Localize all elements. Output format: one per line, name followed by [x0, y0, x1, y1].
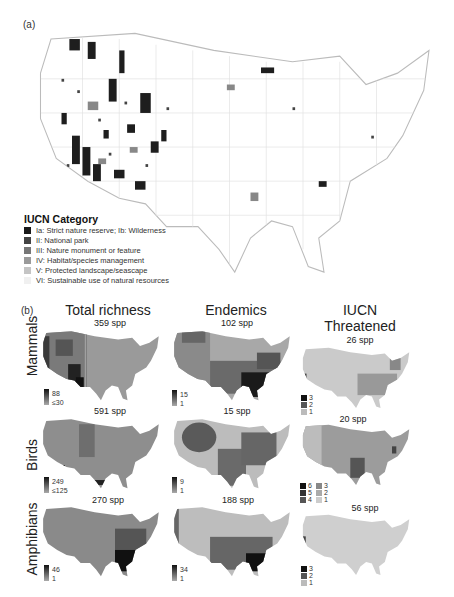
gradient-swatch [44, 389, 49, 405]
gradient-swatch [44, 477, 49, 493]
scale-max: 34 [180, 565, 188, 574]
legend-item: II: National park [24, 235, 169, 245]
scale-value: 1 [324, 496, 328, 503]
legend-item: V: Protected landscape/seascape [24, 265, 169, 275]
spp-count: 102 spp [207, 318, 267, 328]
scale-min: ≤30 [52, 398, 64, 407]
scale-amphibians-endemics: 341 [172, 565, 188, 583]
scale-value: 3 [324, 482, 328, 489]
column-header-iucn: IUCN [320, 302, 400, 318]
scale-max: 46 [52, 565, 60, 574]
scale-min: 1 [52, 574, 60, 583]
spp-count: 26 spp [330, 335, 390, 345]
column-header-threatened: Threatened [320, 318, 400, 334]
row-label-birds: Birds [24, 415, 40, 495]
spp-count: 15 spp [207, 406, 267, 416]
legend-swatch [24, 277, 31, 284]
legend-item: VI: Sustainable use of natural resources [24, 275, 169, 285]
scale-amphibians-richness: 461 [44, 565, 60, 583]
iucn-legend: IUCN Category Ia: Strict nature reserve;… [24, 213, 169, 285]
legend-item: Ia: Strict nature reserve; Ib: Wildernes… [24, 225, 169, 235]
column-header-endemics: Endemics [196, 302, 276, 318]
scale-birds-endemics: 91 [172, 477, 184, 495]
legend-swatch [24, 247, 31, 254]
legend-title: IUCN Category [24, 213, 169, 225]
legend-item: IV: Habitat/species management [24, 255, 169, 265]
scale-value: 2 [309, 572, 313, 579]
legend-label: VI: Sustainable use of natural resources [36, 276, 169, 285]
scale-value: 4 [308, 496, 312, 503]
spp-count: 359 spp [80, 318, 140, 328]
scale-amphibians-threatened: 3 2 1 [301, 565, 313, 586]
row-label-mammals: Mammals [24, 306, 40, 386]
legend-label: III: Nature monument or feature [36, 246, 141, 255]
legend-swatch [24, 237, 31, 244]
scale-min: 1 [180, 399, 188, 408]
scale-min: 1 [180, 574, 188, 583]
scale-value: 1 [309, 579, 313, 586]
legend-label: II: National park [36, 236, 89, 245]
map-birds-threatened [300, 422, 415, 490]
legend-swatch [24, 227, 31, 234]
gradient-swatch [172, 477, 177, 493]
scale-value: 3 [309, 394, 313, 401]
scale-value: 2 [324, 489, 328, 496]
scale-birds-threatened: 654 321 [300, 482, 328, 503]
scale-value: 6 [308, 482, 312, 489]
spp-count: 591 spp [80, 406, 140, 416]
scale-value: 5 [308, 489, 312, 496]
scale-value: 1 [309, 408, 313, 415]
legend-label: IV: Habitat/species management [36, 256, 144, 265]
scale-mammals-richness: 88≤30 [44, 389, 64, 407]
scale-max: 9 [180, 477, 184, 486]
map-amphibians-endemics [171, 504, 296, 582]
gradient-swatch [44, 565, 49, 581]
legend-label: V: Protected landscape/seascape [36, 266, 147, 275]
legend-item: III: Nature monument or feature [24, 245, 169, 255]
scale-max: 15 [180, 390, 188, 399]
column-header-total-richness: Total richness [58, 302, 158, 318]
scale-mammals-endemics: 151 [172, 390, 188, 408]
scale-birds-richness: 249≤125 [44, 477, 68, 495]
legend-label: Ia: Strict nature reserve; Ib: Wildernes… [36, 226, 166, 235]
row-label-amphibians: Amphibians [24, 499, 40, 579]
scale-min: 1 [180, 486, 184, 495]
gradient-swatch [172, 565, 177, 581]
legend-swatch [24, 257, 31, 264]
scale-value: 3 [309, 565, 313, 572]
scale-max: 249 [52, 477, 68, 486]
map-mammals-endemics [171, 328, 296, 406]
map-amphibians-threatened [300, 512, 415, 580]
map-birds-endemics [171, 416, 296, 494]
map-mammals-threatened [300, 345, 415, 413]
scale-max: 88 [52, 389, 64, 398]
scale-mammals-threatened: 3 2 1 [301, 394, 313, 415]
scale-value: 2 [309, 401, 313, 408]
legend-swatch [24, 267, 31, 274]
scale-min: ≤125 [52, 486, 68, 495]
gradient-swatch [172, 390, 177, 406]
